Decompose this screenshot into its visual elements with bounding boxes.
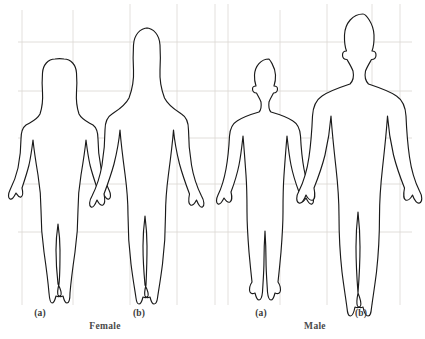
body-silhouette-figure: (a) (b) (a) (b) Female Male xyxy=(0,0,425,339)
caption-male-b: (b) xyxy=(325,308,397,318)
silhouette-female-a xyxy=(9,59,111,303)
silhouette-group xyxy=(0,0,425,339)
caption-male-a: (a) xyxy=(225,308,297,318)
silhouette-female-b xyxy=(90,28,204,304)
silhouette-male-b xyxy=(297,14,422,316)
caption-female-group: Female xyxy=(60,321,150,331)
caption-male-group: Male xyxy=(270,321,360,331)
silhouette-male-a xyxy=(217,59,314,300)
caption-female-a: (a) xyxy=(4,308,76,318)
caption-female-b: (b) xyxy=(103,308,175,318)
